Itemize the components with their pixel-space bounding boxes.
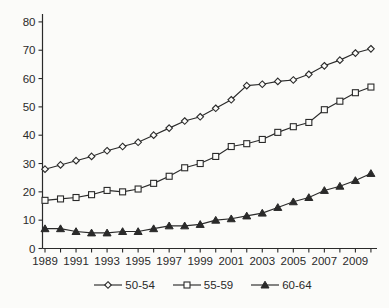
data-point-diamond xyxy=(337,57,344,64)
data-point-square xyxy=(306,119,312,125)
data-point-square xyxy=(73,195,79,201)
legend-diamond-marker-icon xyxy=(93,279,123,291)
data-point-triangle xyxy=(367,170,375,177)
data-point-diamond xyxy=(197,113,204,120)
data-point-diamond xyxy=(275,78,282,85)
data-point-diamond xyxy=(352,50,359,57)
x-tick-label: 2009 xyxy=(343,255,369,267)
y-tick-label: 50 xyxy=(23,101,36,113)
y-tick-label: 30 xyxy=(23,158,36,170)
data-point-square xyxy=(166,173,172,179)
data-point-square xyxy=(89,192,95,198)
data-point-square xyxy=(368,84,374,90)
data-point-square xyxy=(197,161,203,167)
data-point-triangle xyxy=(305,194,313,201)
data-point-diamond xyxy=(105,282,112,289)
series-line-60-64 xyxy=(45,173,371,232)
data-point-square xyxy=(337,98,343,104)
data-point-triangle xyxy=(274,204,282,211)
data-point-diamond xyxy=(166,125,173,132)
y-tick-label: 40 xyxy=(23,129,36,141)
data-point-square xyxy=(184,282,190,288)
data-point-square xyxy=(58,196,64,202)
data-point-triangle xyxy=(336,182,344,189)
legend-label-55-59: 55-59 xyxy=(204,279,233,291)
data-point-triangle xyxy=(258,209,266,216)
chart-legend: 50-54 55-59 60-64 xyxy=(0,279,389,291)
data-point-diamond xyxy=(119,143,126,150)
y-tick-label: 0 xyxy=(29,243,35,255)
data-point-square xyxy=(352,90,358,96)
y-tick-label: 80 xyxy=(23,16,36,28)
x-tick-label: 1999 xyxy=(187,255,213,267)
data-point-square xyxy=(321,107,327,113)
data-point-square xyxy=(259,136,265,142)
legend-triangle-marker-icon xyxy=(250,279,280,291)
y-tick-label: 20 xyxy=(23,186,36,198)
data-point-diamond xyxy=(73,157,80,164)
data-point-square xyxy=(213,153,219,159)
data-point-diamond xyxy=(150,132,157,139)
line-chart-figure: 0102030405060708019891991199319951997199… xyxy=(0,0,389,308)
y-tick-label: 70 xyxy=(23,44,36,56)
x-tick-label: 2007 xyxy=(312,255,338,267)
legend-label-60-64: 60-64 xyxy=(282,279,311,291)
legend-item-50-54: 50-54 xyxy=(93,279,154,291)
data-point-square xyxy=(244,141,250,147)
x-tick-label: 2003 xyxy=(249,255,275,267)
x-tick-label: 1993 xyxy=(94,255,120,267)
data-point-diamond xyxy=(212,105,219,112)
legend-item-60-64: 60-64 xyxy=(250,279,311,291)
data-point-diamond xyxy=(181,118,188,125)
data-point-diamond xyxy=(135,139,142,146)
data-point-diamond xyxy=(88,153,95,160)
data-point-square xyxy=(42,197,48,203)
data-point-square xyxy=(135,186,141,192)
x-tick-label: 1989 xyxy=(32,255,58,267)
data-point-square xyxy=(104,187,110,193)
plot-area: 0102030405060708019891991199319951997199… xyxy=(0,0,389,280)
x-tick-label: 1991 xyxy=(63,255,89,267)
data-point-diamond xyxy=(104,147,111,154)
data-point-square xyxy=(228,144,234,150)
data-point-square xyxy=(290,124,296,130)
data-point-diamond xyxy=(57,162,64,169)
data-point-diamond xyxy=(368,46,375,53)
data-point-diamond xyxy=(306,71,313,78)
data-point-square xyxy=(151,180,157,186)
legend-label-50-54: 50-54 xyxy=(125,279,154,291)
data-point-square xyxy=(120,189,126,195)
data-point-square xyxy=(275,129,281,135)
legend-item-55-59: 55-59 xyxy=(172,279,233,291)
x-tick-label: 2005 xyxy=(281,255,307,267)
data-point-diamond xyxy=(290,77,297,84)
y-tick-label: 10 xyxy=(23,214,36,226)
x-tick-label: 1995 xyxy=(125,255,151,267)
legend-square-marker-icon xyxy=(172,279,202,291)
x-tick-label: 2001 xyxy=(218,255,244,267)
data-point-diamond xyxy=(259,81,266,88)
y-tick-label: 60 xyxy=(23,73,36,85)
data-point-triangle xyxy=(351,177,359,184)
data-point-square xyxy=(182,165,188,171)
x-tick-label: 1997 xyxy=(156,255,182,267)
series-line-55-59 xyxy=(45,87,371,200)
data-point-diamond xyxy=(321,63,328,70)
